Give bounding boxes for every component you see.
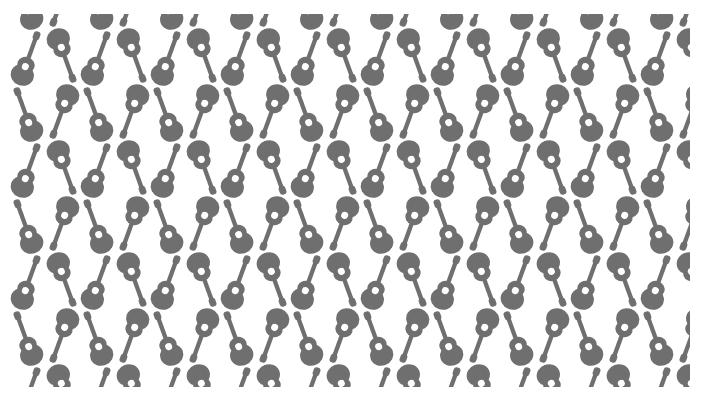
guitar-icon: [534, 249, 576, 310]
guitar-icon: [635, 84, 677, 145]
guitar-icon: [568, 28, 610, 89]
guitar-icon: [358, 140, 400, 201]
guitar-icon: [215, 308, 257, 369]
guitar-icon: [5, 308, 47, 369]
guitar-icon: [218, 28, 260, 89]
guitar-icon: [674, 25, 690, 86]
guitar-icon: [184, 249, 226, 310]
guitar-icon: [78, 28, 120, 89]
guitar-icon: [114, 137, 156, 198]
guitar-icon: [638, 364, 680, 387]
guitar-icon: [78, 364, 120, 387]
guitar-icon: [604, 25, 646, 86]
guitar-icon: [428, 140, 470, 201]
guitar-icon: [288, 28, 330, 89]
guitar-icon: [218, 140, 260, 201]
guitar-icon: [461, 193, 503, 254]
guitar-icon: [148, 28, 190, 89]
guitar-icon: [461, 305, 503, 366]
guitar-icon: [601, 14, 643, 30]
guitar-icon: [425, 84, 467, 145]
guitar-icon: [604, 249, 646, 310]
guitar-icon: [321, 193, 363, 254]
guitar-icon: [601, 305, 643, 366]
guitar-icon: [215, 14, 257, 33]
guitar-icon: [41, 14, 83, 30]
guitar-icon: [114, 361, 156, 387]
guitar-icon: [114, 25, 156, 86]
guitar-pattern-canvas: [0, 14, 690, 387]
guitar-icon: [75, 196, 117, 257]
guitar-icon: [425, 14, 467, 33]
guitar-icon: [285, 308, 327, 369]
guitar-icon: [218, 252, 260, 313]
guitar-icon: [391, 305, 433, 366]
guitar-icon: [41, 81, 83, 142]
guitar-icon: [254, 361, 296, 387]
guitar-icon: [495, 14, 537, 33]
guitar-icon: [251, 14, 293, 30]
guitar-icon: [604, 137, 646, 198]
guitar-icon: [671, 193, 690, 254]
guitar-icon: [534, 25, 576, 86]
guitar-icon: [604, 361, 646, 387]
guitar-icon: [671, 305, 690, 366]
guitar-icon: [358, 364, 400, 387]
guitar-icon: [324, 25, 366, 86]
guitar-icon: [44, 25, 86, 86]
guitar-icon: [181, 81, 223, 142]
guitar-icon: [534, 137, 576, 198]
guitar-icon: [531, 305, 573, 366]
guitar-icon: [498, 28, 540, 89]
guitar-icon: [254, 25, 296, 86]
guitar-icon: [44, 361, 86, 387]
guitar-icon: [111, 193, 153, 254]
guitar-icon: [8, 364, 50, 387]
guitar-icon: [288, 364, 330, 387]
guitar-icon: [5, 196, 47, 257]
guitar-icon: [671, 14, 690, 30]
guitar-icon: [111, 14, 153, 30]
guitar-icon: [111, 81, 153, 142]
guitar-icon: [568, 364, 610, 387]
guitar-icon: [461, 81, 503, 142]
guitar-icon: [148, 140, 190, 201]
guitar-icon: [495, 308, 537, 369]
guitar-icon: [184, 25, 226, 86]
guitar-icon: [285, 14, 327, 33]
guitar-icon: [321, 305, 363, 366]
guitar-icon: [8, 28, 50, 89]
guitar-icon: [394, 249, 436, 310]
guitar-icon: [114, 249, 156, 310]
guitar-icon: [464, 361, 506, 387]
guitar-icon: [568, 140, 610, 201]
guitar-icon: [635, 14, 677, 33]
guitar-icon: [78, 140, 120, 201]
guitar-icon: [358, 252, 400, 313]
guitar-icon: [464, 25, 506, 86]
guitar-icon: [638, 252, 680, 313]
guitar-icon: [324, 361, 366, 387]
guitar-icon: [5, 84, 47, 145]
guitar-icon: [44, 137, 86, 198]
guitar-icon: [565, 196, 607, 257]
guitar-icon: [8, 140, 50, 201]
guitar-icon: [531, 193, 573, 254]
guitar-icon: [218, 364, 260, 387]
guitar-icon: [324, 249, 366, 310]
guitar-icon: [498, 140, 540, 201]
guitar-icon: [251, 193, 293, 254]
guitar-icon: [638, 28, 680, 89]
guitar-icon: [565, 84, 607, 145]
guitar-icon: [394, 361, 436, 387]
guitar-icon: [41, 305, 83, 366]
guitar-icon: [321, 81, 363, 142]
guitar-icon: [391, 81, 433, 142]
guitar-icon: [285, 84, 327, 145]
guitar-icon: [215, 84, 257, 145]
guitar-icon: [145, 84, 187, 145]
guitar-icon: [181, 305, 223, 366]
guitar-icon: [184, 137, 226, 198]
guitar-icon: [635, 308, 677, 369]
guitar-icon: [635, 196, 677, 257]
